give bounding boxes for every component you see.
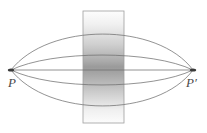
image-point-marker: [190, 68, 196, 71]
path-diagram-svg: [0, 0, 207, 133]
source-point-label: P: [8, 76, 16, 89]
image-point-label: P′: [186, 76, 197, 89]
figure-container: P P′: [0, 0, 207, 133]
source-point-marker: [8, 68, 14, 71]
